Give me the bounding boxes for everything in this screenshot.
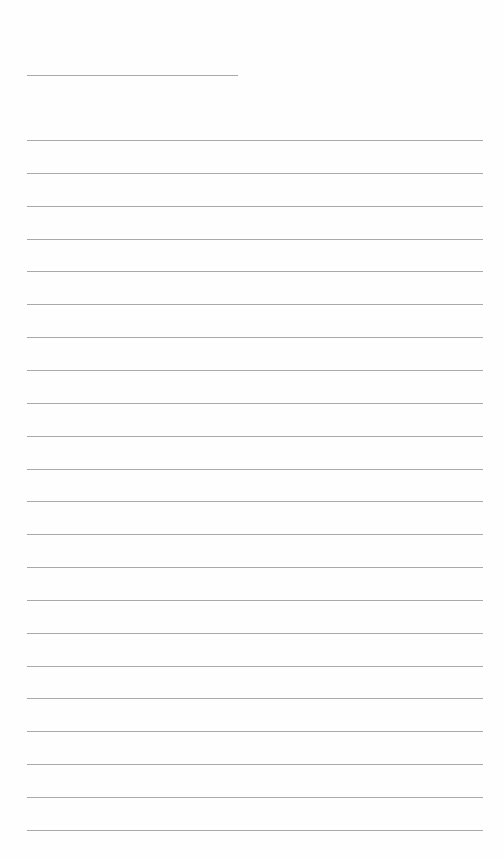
ruled-line [27, 271, 483, 272]
ruled-line [27, 501, 483, 502]
ruled-line [27, 370, 483, 371]
ruled-line [27, 666, 483, 667]
ruled-line [27, 633, 483, 634]
ruled-line [27, 731, 483, 732]
ruled-line [27, 764, 483, 765]
ruled-line [27, 797, 483, 798]
ruled-line [27, 567, 483, 568]
ruled-line [27, 239, 483, 240]
ruled-line [27, 436, 483, 437]
ruled-line [27, 140, 483, 141]
ruled-line [27, 534, 483, 535]
ruled-line [27, 304, 483, 305]
lined-paper-page [0, 0, 504, 859]
ruled-line [27, 173, 483, 174]
ruled-line [27, 830, 483, 831]
ruled-line [27, 206, 483, 207]
ruled-line [27, 698, 483, 699]
ruled-line [27, 469, 483, 470]
ruled-line [27, 337, 483, 338]
header-line [27, 75, 238, 76]
ruled-line [27, 403, 483, 404]
ruled-line [27, 600, 483, 601]
